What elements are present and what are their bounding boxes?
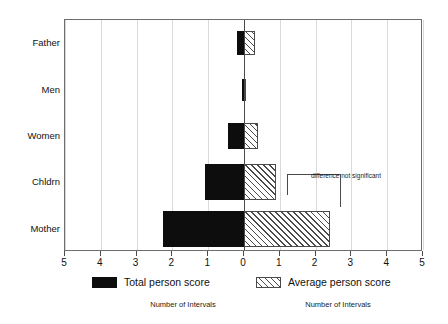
legend-swatch-icon <box>92 277 117 288</box>
bar-total-person-score-father <box>237 31 244 55</box>
x-axis-tick <box>171 251 172 256</box>
x-axis-tick-label: 4 <box>383 257 389 269</box>
bar-average-person-score-chldrn <box>244 164 276 200</box>
x-axis-tick-label: 4 <box>97 257 103 269</box>
x-axis-tick-label: 3 <box>133 257 139 269</box>
x-axis-tick-label: 1 <box>276 257 282 269</box>
legend-label: Total person score <box>124 276 210 288</box>
legend-swatch-icon <box>256 277 281 288</box>
bar-group-men <box>65 66 421 112</box>
x-axis-tick <box>207 251 208 256</box>
y-axis-label-chldrn: Chldrn <box>2 176 60 187</box>
y-axis-labels: FatherMenWomenChldrnMother <box>0 19 60 251</box>
bar-average-person-score-father <box>244 31 255 55</box>
x-axis-tick <box>315 251 316 256</box>
x-axis-tick-label: 2 <box>312 257 318 269</box>
x-axis-tick <box>243 251 244 256</box>
bar-average-person-score-women <box>244 123 258 149</box>
bar-total-person-score-chldrn <box>205 164 244 200</box>
x-axis-tick <box>100 251 101 256</box>
x-axis-tick-label: 0 <box>240 257 246 269</box>
gridline <box>423 20 424 250</box>
y-axis-label-women: Women <box>2 130 60 141</box>
x-axis-tick <box>386 251 387 256</box>
bar-group-father <box>65 20 421 66</box>
footer-axis-title-right: Number of Intervals <box>305 300 370 310</box>
x-axis-tick-label: 1 <box>204 257 210 269</box>
x-axis-tick <box>350 251 351 256</box>
x-axis-tick-label: 3 <box>348 257 354 269</box>
legend-item-average-person-score[interactable]: Average person score <box>256 276 391 288</box>
y-axis-label-mother: Mother <box>2 222 60 233</box>
bar-group-women <box>65 113 421 159</box>
bar-group-chldrn <box>65 159 421 205</box>
footer-axis-titles: Number of IntervalsNumber of Intervals <box>64 300 422 314</box>
x-axis-tick <box>422 251 423 256</box>
x-axis-tick <box>136 251 137 256</box>
x-axis-tick-label: 5 <box>61 257 67 269</box>
bar-total-person-score-women <box>228 123 244 149</box>
x-axis-tick <box>64 251 65 256</box>
legend-item-total-person-score[interactable]: Total person score <box>92 276 210 288</box>
plot-area <box>64 19 422 251</box>
legend-label: Average person score <box>288 276 391 288</box>
chart-legend: Total person scoreAverage person score <box>64 276 422 294</box>
x-axis-tick-label: 2 <box>169 257 175 269</box>
y-axis-label-father: Father <box>2 37 60 48</box>
bar-group-mother <box>65 206 421 252</box>
chart-root: FatherMenWomenChldrnMother 54321012345 d… <box>0 0 448 324</box>
bar-average-person-score-men <box>244 79 246 101</box>
x-axis-tick-label: 5 <box>419 257 425 269</box>
x-axis-tick <box>279 251 280 256</box>
x-axis: 54321012345 <box>64 251 422 277</box>
bar-average-person-score-mother <box>244 211 330 247</box>
y-axis-label-men: Men <box>2 83 60 94</box>
footer-axis-title-left: Number of Intervals <box>150 300 215 310</box>
bar-total-person-score-mother <box>163 211 244 247</box>
